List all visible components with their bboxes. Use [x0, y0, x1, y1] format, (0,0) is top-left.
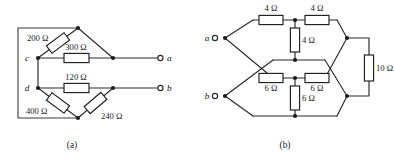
- panel-a-circuit: 200 Ω 300 Ω 120 Ω 400 Ω 240 Ω c d a b (a…: [0, 0, 197, 161]
- node-dot-c: [36, 56, 40, 60]
- caption-panel-b: (b): [280, 140, 291, 151]
- node-dot-right-upper: [345, 36, 349, 40]
- resistor-r300: [64, 53, 89, 62]
- label-r6-right: 6 Ω: [311, 83, 324, 93]
- panel-b-circuit: 4 Ω 4 Ω 4 Ω 6 Ω 6 Ω 6 Ω 10 Ω a b (b): [197, 0, 394, 161]
- wire-a-to-top-rail: [225, 20, 253, 38]
- wire-a-to-lower-mid-rail: [225, 38, 273, 78]
- wire-b-to-bottom-rail: [225, 96, 253, 116]
- node-dot-lower-mid: [293, 76, 297, 80]
- label-terminal-a: a: [205, 33, 210, 43]
- label-terminal-b: b: [205, 91, 210, 101]
- terminal-ring-a[interactable]: [212, 35, 217, 40]
- label-r4-top-left: 4 Ω: [265, 3, 278, 13]
- label-node-c: c: [25, 53, 29, 63]
- node-dot-apex-top: [76, 26, 80, 30]
- caption-panel-a: (a): [67, 140, 77, 151]
- label-r6-left: 6 Ω: [265, 83, 278, 93]
- resistor-r6-mid: [290, 86, 299, 110]
- circuit-figure: 200 Ω 300 Ω 120 Ω 400 Ω 240 Ω c d a b (a…: [0, 0, 394, 161]
- node-dot-upper-mid: [293, 58, 297, 62]
- label-terminal-a: a: [167, 53, 172, 63]
- resistor-r10: [364, 55, 373, 81]
- node-dot-apex-bottom: [76, 116, 80, 120]
- wire-top-rail-to-right-upper-node: [337, 20, 347, 38]
- node-dot-d: [36, 86, 40, 90]
- resistor-r6-right: [305, 73, 329, 82]
- resistor-r4-mid: [290, 28, 299, 52]
- node-dot-right-upper: [111, 56, 115, 60]
- label-r4-mid: 4 Ω: [302, 35, 315, 45]
- node-dot-top-mid: [293, 18, 297, 22]
- node-dot-right-lower: [111, 86, 115, 90]
- label-r120: 120 Ω: [65, 72, 86, 82]
- terminal-ring-b[interactable]: [158, 85, 163, 90]
- label-r200: 200 Ω: [27, 33, 48, 43]
- label-r400: 400 Ω: [26, 106, 47, 116]
- terminal-ring-a[interactable]: [158, 55, 163, 60]
- label-r6-mid: 6 Ω: [302, 93, 315, 103]
- label-r4-top-right: 4 Ω: [311, 3, 324, 13]
- wire-lower-mid-rail-to-right-upper-node: [325, 38, 347, 78]
- wire-bottom-rail-to-right-lower-node: [337, 96, 347, 116]
- node-dot-right-lower: [345, 94, 349, 98]
- node-dot-terminal-a: [223, 36, 227, 40]
- label-r10: 10 Ω: [376, 63, 393, 73]
- resistor-r4-top-left: [259, 15, 283, 24]
- terminal-ring-b[interactable]: [212, 93, 217, 98]
- label-r300: 300 Ω: [65, 42, 86, 52]
- resistor-r120: [64, 83, 89, 92]
- node-dot-bottom-mid: [293, 114, 297, 118]
- label-r240: 240 Ω: [101, 111, 122, 121]
- resistor-r400: [46, 93, 69, 114]
- label-terminal-b: b: [167, 83, 172, 93]
- resistor-r6-left: [259, 73, 283, 82]
- label-node-d: d: [25, 83, 30, 93]
- resistor-r4-top-right: [305, 15, 329, 24]
- node-dot-terminal-b: [223, 94, 227, 98]
